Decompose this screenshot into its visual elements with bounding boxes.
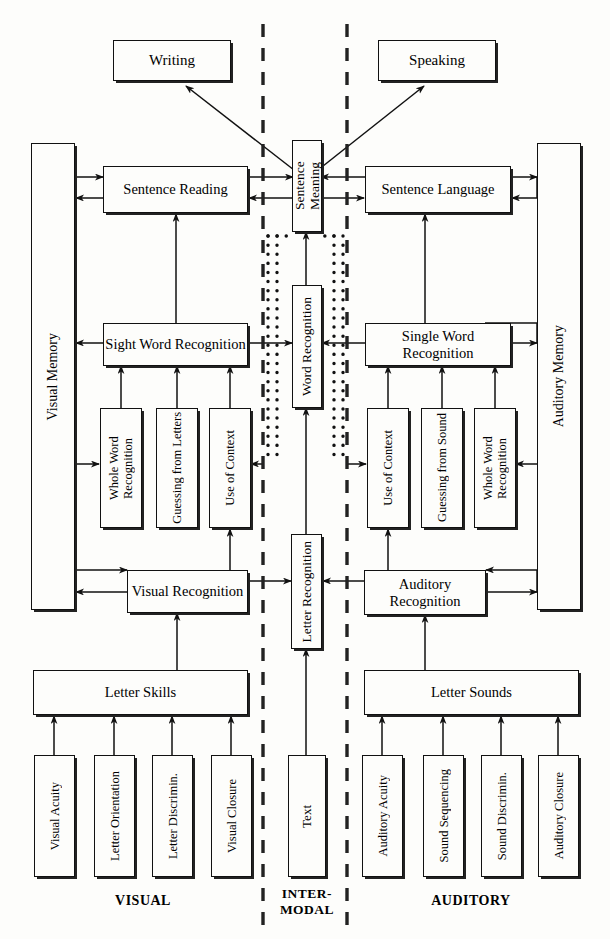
band-label-auditory: AUDITORY [362,893,580,909]
box-auditory-primitive-3[interactable]: Auditory Closure [538,755,579,877]
box-sentence-reading-label: Sentence Reading [123,181,227,197]
band-label-intermodal: INTER- MODAL [271,886,343,917]
box-single-word-recognition[interactable]: Single Word Recognition [365,323,511,366]
box-sight-word-recognition[interactable]: Sight Word Recognition [103,323,248,366]
box-visual-primitive-1[interactable]: Letter Orientation [94,755,135,877]
box-letter-skills-label: Letter Skills [105,684,176,700]
box-visual-recognition-label: Visual Recognition [132,583,244,599]
diagram-canvas: Writing Speaking Visual Memory Auditory … [0,0,610,939]
box-word-recognition-label: Word Recognition [299,297,314,396]
box-auditory-primitive-1[interactable]: Sound Sequencing [423,755,464,877]
box-speaking[interactable]: Speaking [378,40,496,81]
box-visual-recognition[interactable]: Visual Recognition [127,570,248,613]
box-writing-label: Writing [149,52,195,69]
box-visual-strategy-2-label: Use of Context [223,430,237,506]
box-auditory-strategy-2-label: Whole Word Recognition [481,409,509,527]
box-letter-sounds-label: Letter Sounds [431,684,512,700]
box-text-label: Text [300,805,315,828]
box-visual-memory[interactable]: Visual Memory [31,143,75,610]
box-visual-primitive-0-label: Visual Acuity [48,782,62,850]
box-sentence-meaning[interactable]: Sentence Meaning [292,140,322,232]
box-single-word-recognition-label: Single Word Recognition [366,328,510,360]
box-visual-strategy-0-label: Whole Word Recognition [107,409,135,527]
box-visual-primitive-0[interactable]: Visual Acuity [34,755,75,877]
box-visual-primitive-2-label: Letter Discrimin. [166,773,180,859]
box-auditory-primitive-1-label: Sound Sequencing [437,769,451,862]
box-letter-skills[interactable]: Letter Skills [33,670,248,715]
box-auditory-primitive-0[interactable]: Auditory Acuity [362,755,403,877]
box-auditory-primitive-2-label: Sound Discrimin. [495,772,509,860]
box-auditory-strategy-1[interactable]: Guessing from Sound [421,408,463,528]
box-auditory-strategy-2[interactable]: Whole Word Recognition [474,408,516,528]
box-auditory-primitive-2[interactable]: Sound Discrimin. [481,755,522,877]
box-visual-strategy-2[interactable]: Use of Context [209,408,251,528]
box-visual-primitive-1-label: Letter Orientation [108,771,122,861]
box-auditory-recognition[interactable]: Auditory Recognition [364,570,486,615]
box-auditory-memory[interactable]: Auditory Memory [537,143,581,610]
box-sentence-reading[interactable]: Sentence Reading [103,166,248,213]
box-visual-primitive-3[interactable]: Visual Closure [211,755,252,877]
box-visual-primitive-2[interactable]: Letter Discrimin. [152,755,193,877]
box-letter-sounds[interactable]: Letter Sounds [364,670,579,715]
box-auditory-memory-label: Auditory Memory [551,325,567,427]
box-visual-strategy-0[interactable]: Whole Word Recognition [100,408,142,528]
box-visual-primitive-3-label: Visual Closure [225,779,239,853]
box-auditory-strategy-0-label: Use of Context [381,430,395,506]
box-sentence-meaning-label: Sentence Meaning [292,141,322,231]
box-letter-recognition-label: Letter Recognition [299,541,314,643]
box-auditory-recognition-label: Auditory Recognition [365,576,485,608]
box-sentence-language[interactable]: Sentence Language [365,166,511,213]
box-writing[interactable]: Writing [113,40,231,81]
box-auditory-primitive-3-label: Auditory Closure [552,772,566,859]
box-visual-strategy-1[interactable]: Guessing from Letters [156,408,198,528]
box-letter-recognition[interactable]: Letter Recognition [291,534,322,649]
box-sight-word-recognition-label: Sight Word Recognition [105,336,245,352]
box-auditory-strategy-0[interactable]: Use of Context [367,408,409,528]
box-auditory-strategy-1-label: Guessing from Sound [435,413,449,522]
box-speaking-label: Speaking [409,52,465,69]
box-text[interactable]: Text [288,755,326,877]
box-word-recognition[interactable]: Word Recognition [292,285,322,408]
band-label-visual: VISUAL [34,893,252,909]
box-visual-memory-label: Visual Memory [45,333,61,420]
box-sentence-language-label: Sentence Language [381,181,494,197]
box-visual-strategy-1-label: Guessing from Letters [170,412,184,524]
box-auditory-primitive-0-label: Auditory Acuity [376,775,390,857]
